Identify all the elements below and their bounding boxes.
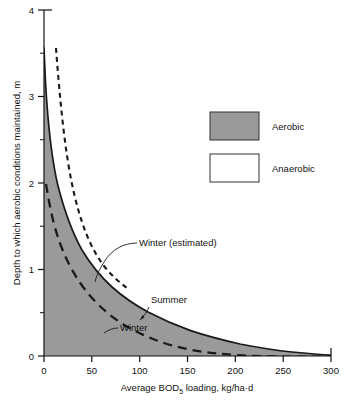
x-axis-title-main: Average BOD: [121, 382, 180, 393]
aerobic-shaded-region: [44, 48, 331, 356]
y-axis-title: Depth to which aerobic conditions mainta…: [11, 81, 22, 285]
x-axis-title-tail: loading, kg/ha·d: [183, 382, 253, 393]
y-tick-label: 4: [29, 5, 34, 16]
legend-swatch-aerobic: [210, 112, 259, 140]
y-tick-label: 2: [29, 178, 34, 189]
y-tick-label: 0: [29, 351, 34, 362]
chart-legend: Aerobic Anaerobic: [210, 112, 315, 182]
x-axis-title: Average BOD5 loading, kg/ha·d: [121, 382, 254, 395]
x-tick-label: 0: [41, 365, 46, 376]
x-axis-ticks: [44, 356, 331, 362]
legend-label-anaerobic: Anaerobic: [272, 163, 315, 174]
x-tick-label: 300: [323, 365, 339, 376]
legend-label-aerobic: Aerobic: [272, 121, 304, 132]
y-axis-title-text: Depth to which aerobic conditions mainta…: [11, 81, 22, 285]
chart-figure: 0 1 2 3 4 0 50 100 150 200 250 300 Avera…: [0, 0, 346, 404]
y-tick-label: 3: [29, 91, 34, 102]
annotation-winter: Winter: [120, 322, 147, 333]
y-axis-ticks: [38, 10, 44, 356]
x-tick-labels: 0 50 100 150 200 250 300: [41, 365, 339, 376]
x-tick-label: 200: [227, 365, 243, 376]
x-tick-label: 250: [275, 365, 291, 376]
x-tick-label: 50: [87, 365, 98, 376]
y-tick-label: 1: [29, 264, 34, 275]
annotation-summer: Summer: [151, 294, 187, 305]
chart-plot-area: 0 1 2 3 4 0 50 100 150 200 250 300 Avera…: [0, 0, 346, 404]
annotation-winter-estimated: Winter (estimated): [139, 237, 217, 248]
x-tick-label: 100: [132, 365, 148, 376]
svg-text:Average BOD5 loading, kg/ha·d: Average BOD5 loading, kg/ha·d: [121, 382, 254, 395]
x-tick-label: 150: [180, 365, 196, 376]
y-tick-labels: 0 1 2 3 4: [29, 5, 34, 362]
legend-swatch-anaerobic: [210, 154, 259, 182]
